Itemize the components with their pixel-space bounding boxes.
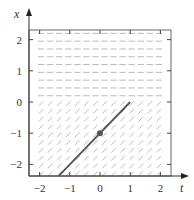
slope-segment xyxy=(129,125,133,130)
slope-segment xyxy=(84,109,88,114)
slope-segment xyxy=(75,171,79,176)
slope-segment xyxy=(57,109,61,114)
slope-segment xyxy=(102,148,106,153)
y-tick-label: 1 xyxy=(17,65,23,77)
slope-segment xyxy=(48,164,52,169)
slope-segment xyxy=(157,109,161,114)
slope-segment xyxy=(75,140,79,145)
slope-segment xyxy=(148,125,152,130)
slope-segment xyxy=(111,109,115,114)
slope-segment xyxy=(66,117,70,122)
slope-segment xyxy=(66,140,70,145)
x-tick-label: 1 xyxy=(127,182,133,194)
slope-segment xyxy=(48,101,52,106)
slope-segment xyxy=(57,132,61,137)
slope-segment xyxy=(102,109,106,114)
slope-segment xyxy=(120,125,124,130)
slope-segment xyxy=(48,148,52,153)
slope-segment xyxy=(102,156,106,161)
slope-segment xyxy=(139,171,143,176)
slope-field xyxy=(38,33,162,176)
slope-segment xyxy=(129,109,133,114)
slope-segment xyxy=(75,132,79,137)
slope-segment xyxy=(39,140,43,145)
slope-segment xyxy=(57,101,61,106)
slope-segment xyxy=(139,117,143,122)
slope-segment xyxy=(48,171,52,176)
slope-segment xyxy=(39,148,43,153)
slope-segment xyxy=(102,171,106,176)
x-tick-label: 0 xyxy=(97,182,103,194)
slope-segment xyxy=(120,101,124,106)
slope-segment xyxy=(157,125,161,130)
slope-segment xyxy=(139,156,143,161)
slope-segment xyxy=(66,156,70,161)
y-tick-label: −1 xyxy=(10,127,22,139)
y-tick-label: −2 xyxy=(10,158,22,170)
slope-segment xyxy=(157,156,161,161)
slope-segment xyxy=(75,125,79,130)
slope-segment xyxy=(66,109,70,114)
slope-segment xyxy=(139,140,143,145)
slope-segment xyxy=(157,148,161,153)
slope-segment xyxy=(93,164,97,169)
slope-segment xyxy=(120,164,124,169)
slope-segment xyxy=(93,148,97,153)
slope-segment xyxy=(111,101,115,106)
slope-segment xyxy=(48,125,52,130)
slope-segment xyxy=(84,164,88,169)
slope-segment xyxy=(120,148,124,153)
x-axis-arrow-icon xyxy=(181,173,189,179)
slope-segment xyxy=(75,109,79,114)
slope-segment xyxy=(148,156,152,161)
slope-segment xyxy=(129,132,133,137)
slope-segment xyxy=(84,125,88,130)
slope-segment xyxy=(66,148,70,153)
slope-segment xyxy=(93,117,97,122)
slope-segment xyxy=(93,140,97,145)
slope-segment xyxy=(84,101,88,106)
slope-segment xyxy=(111,132,115,137)
slope-segment xyxy=(48,140,52,145)
slope-segment xyxy=(39,109,43,114)
slope-segment xyxy=(111,125,115,130)
slope-segment xyxy=(157,132,161,137)
y-axis-label: x xyxy=(13,7,20,21)
slope-segment xyxy=(39,125,43,130)
slope-segment xyxy=(129,117,133,122)
x-tick-label: −1 xyxy=(64,182,76,194)
slope-field-chart: −2−1012−2−1012 t x xyxy=(0,0,194,200)
slope-segment xyxy=(157,117,161,122)
slope-segment xyxy=(139,148,143,153)
y-tick-label: 0 xyxy=(17,96,23,108)
slope-segment xyxy=(93,171,97,176)
slope-segment xyxy=(157,164,161,169)
slope-segment xyxy=(84,171,88,176)
x-tick-label: 2 xyxy=(158,182,164,194)
slope-segment xyxy=(48,117,52,122)
slope-segment xyxy=(102,164,106,169)
slope-segment xyxy=(120,171,124,176)
slope-segment xyxy=(139,109,143,114)
slope-segment xyxy=(57,117,61,122)
slope-segment xyxy=(139,164,143,169)
slope-segment xyxy=(129,140,133,145)
initial-point xyxy=(97,130,103,136)
slope-segment xyxy=(148,132,152,137)
slope-segment xyxy=(75,148,79,153)
slope-segment xyxy=(157,101,161,106)
slope-segment xyxy=(93,101,97,106)
slope-segment xyxy=(48,156,52,161)
slope-segment xyxy=(57,125,61,130)
slope-segment xyxy=(129,156,133,161)
slope-segment xyxy=(39,101,43,106)
y-axis-arrow-icon xyxy=(26,8,32,16)
y-tick-label: 2 xyxy=(17,34,23,46)
slope-segment xyxy=(48,109,52,114)
slope-segment xyxy=(84,156,88,161)
slope-segment xyxy=(120,117,124,122)
slope-segment xyxy=(139,125,143,130)
slope-segment xyxy=(129,164,133,169)
slope-segment xyxy=(75,164,79,169)
slope-segment xyxy=(57,156,61,161)
